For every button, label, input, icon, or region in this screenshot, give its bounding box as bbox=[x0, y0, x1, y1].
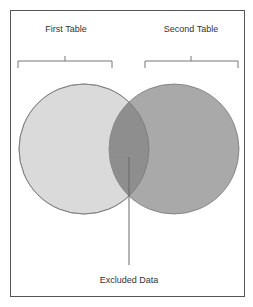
first-table-label: First Table bbox=[45, 24, 86, 34]
first-table-bracket bbox=[18, 56, 112, 68]
second-table-bracket bbox=[145, 56, 238, 68]
excluded-data-label: Excluded Data bbox=[100, 275, 159, 285]
second-table-label: Second Table bbox=[164, 24, 218, 34]
venn-diagram bbox=[0, 0, 253, 307]
